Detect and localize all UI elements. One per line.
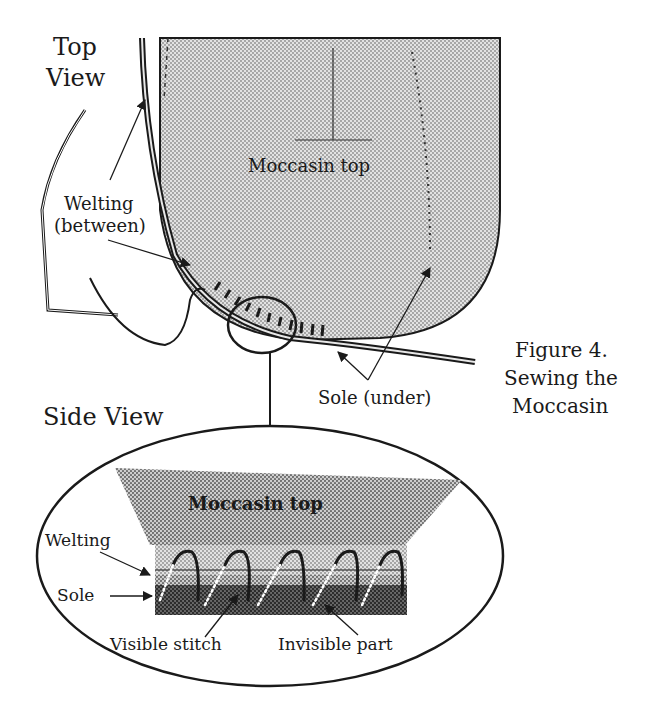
side-view: Side View Moccasin top Welting Sole Visi… [37,403,503,686]
moccasin-top-label: Moccasin top [248,155,370,176]
side-welting-label: Welting [45,530,111,550]
figure-caption-line1: Figure 4. [515,338,608,362]
top-view: Top View Moccasin top Welting (between) … [42,33,618,425]
top-view-heading-line2: View [45,64,106,92]
moccasin-sewing-figure: Top View Moccasin top Welting (between) … [0,0,660,725]
side-sole-label: Sole [57,585,94,605]
side-moccasin-top-label: Moccasin top [188,493,323,514]
invisible-part-label: Invisible part [278,634,393,654]
sole-label: Sole (under) [318,387,431,408]
figure-caption-line3: Moccasin [512,394,609,418]
welting-arrow-up [110,100,145,180]
top-view-heading-line1: Top [53,33,97,61]
sewing-thread [90,278,205,345]
welting-label-line1: Welting [64,193,134,214]
moccasin-top-shape [160,38,500,340]
welting-sole-mid [155,575,407,585]
visible-stitch-label: Visible stitch [109,634,222,654]
side-view-heading: Side View [43,403,164,431]
sole-arrow-left [338,352,368,380]
welting-label-line2: (between) [54,215,146,236]
figure-caption-line2: Sewing the [504,366,618,390]
